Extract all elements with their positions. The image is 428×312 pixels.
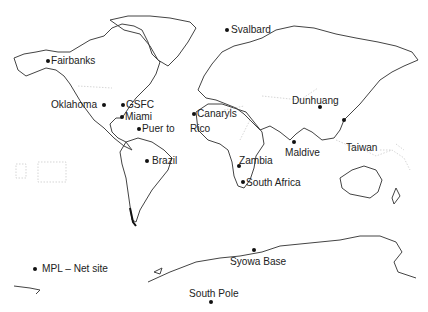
maldive-label: Maldive	[285, 146, 320, 158]
syowa-base-label: Syowa Base	[230, 255, 286, 267]
taiwan-label: Taiwan	[346, 141, 378, 153]
dunhuang-label: Dunhuang	[292, 94, 339, 106]
canary-islands-label: Canaryls	[197, 107, 237, 119]
oklahoma-marker-icon	[102, 103, 106, 107]
canary-islands-marker-icon	[192, 112, 196, 116]
svalbard-label: Svalbard	[231, 23, 271, 35]
miami-label: Miami	[125, 110, 152, 122]
greenland-coast	[110, 16, 196, 66]
puerto-rico-cont-label: Rico	[190, 122, 210, 134]
australia-coast	[340, 166, 382, 198]
gsfc-label: GSFC	[126, 98, 154, 110]
fairbanks-label: Fairbanks	[51, 54, 95, 66]
legend-marker-icon	[33, 267, 37, 271]
puerto-rico-marker-icon	[137, 127, 141, 131]
south-pole-marker-icon	[209, 300, 213, 304]
miami-marker-icon	[120, 115, 124, 119]
gsfc-marker-icon	[121, 103, 125, 107]
zambia-label: Zambia	[239, 154, 273, 166]
puerto-rico-label: Puer to	[142, 122, 175, 134]
syowa-base-marker-icon	[252, 248, 256, 252]
brazil-marker-icon	[145, 159, 149, 163]
fairbanks-marker-icon	[46, 59, 50, 63]
south-africa-label: South Africa	[246, 176, 301, 188]
south-pole-label: South Pole	[189, 287, 239, 299]
south-america-coast	[120, 138, 172, 222]
oklahoma-label: Oklahoma	[51, 98, 97, 110]
brazil-label: Brazil	[152, 154, 177, 166]
maldive-marker-icon	[292, 140, 296, 144]
taiwan-marker-icon	[342, 118, 346, 122]
south-africa-marker-icon	[241, 180, 245, 184]
legend-label: MPL – Net site	[42, 262, 108, 274]
north-america-coast	[14, 24, 160, 150]
svalbard-marker-icon	[225, 28, 229, 32]
eurasia-coast	[198, 26, 418, 140]
